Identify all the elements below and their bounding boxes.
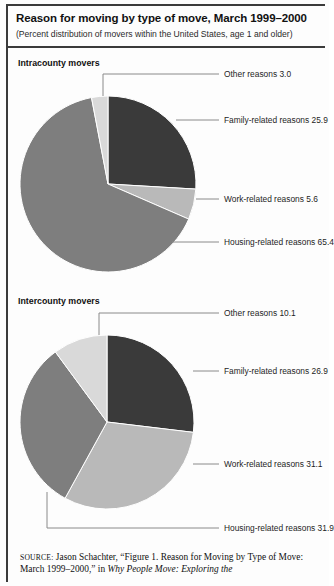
- pie-slice-family: [107, 335, 194, 432]
- callout-pie2-family: Family-related reasons 26.9: [224, 366, 328, 376]
- callout-pie1-other: Other reasons 3.0: [224, 69, 291, 79]
- source-text-italic: Why People Move: Exploring the: [107, 564, 232, 574]
- figure-top-rule: [6, 4, 325, 6]
- callout-pie1-family: Family-related reasons 25.9: [224, 115, 328, 125]
- source-text-line1: Jason Schachter, “Figure 1. Reason for M…: [53, 552, 276, 562]
- figure-title: Reason for moving by type of move, March…: [16, 12, 316, 25]
- callout-pie2-other: Other reasons 10.1: [224, 308, 296, 318]
- callout-pie2-work: Work-related reasons 31.1: [224, 459, 323, 469]
- callout-pie1-housing: Housing-related reasons 65.4: [224, 237, 334, 247]
- figure-header-rule: [6, 46, 325, 48]
- pie-chart-intercounty: [8, 322, 213, 522]
- source-label: SOURCE:: [20, 553, 53, 562]
- panel-title-intercounty: Intercounty movers: [18, 296, 100, 306]
- figure-subtitle: (Percent distribution of movers within t…: [16, 29, 321, 40]
- pie-chart-intracounty: [8, 84, 213, 284]
- pie-slice-family: [108, 96, 196, 189]
- source-note: SOURCE: Jason Schachter, “Figure 1. Reas…: [20, 552, 320, 575]
- callout-pie2-housing: Housing-related reasons 31.9: [224, 523, 334, 533]
- callout-pie1-work: Work-related reasons 5.6: [224, 194, 318, 204]
- panel-title-intracounty: Intracounty movers: [18, 58, 100, 68]
- pie-svg-intracounty: [8, 84, 213, 284]
- pie-svg-intercounty: [8, 322, 213, 522]
